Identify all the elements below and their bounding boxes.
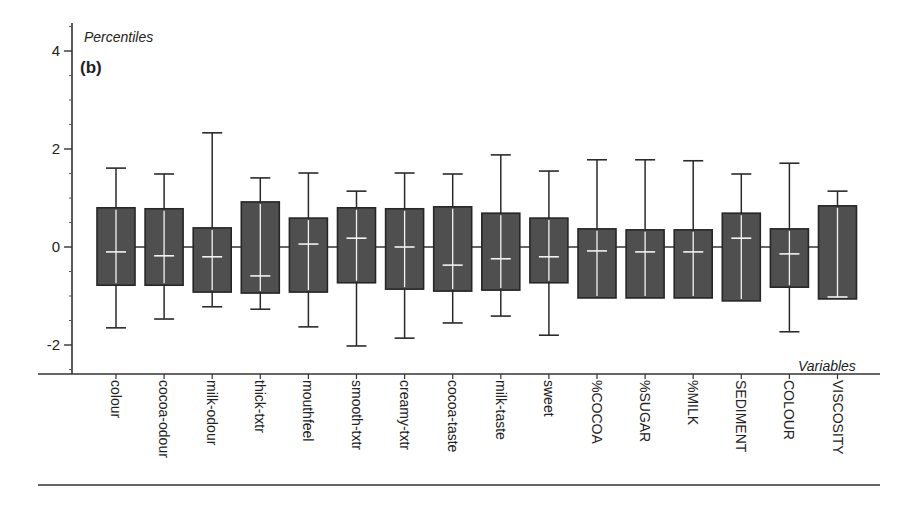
boxplot-chart: 420-2 Percentiles (b) Variables colourco… [0, 0, 913, 517]
y-tick-label: -2 [47, 336, 60, 353]
x-axis-title: Variables [798, 358, 856, 374]
box-mouthfeel [289, 173, 327, 327]
box--cocoa [578, 160, 616, 298]
box--milk [674, 161, 712, 298]
y-tick-label: 4 [52, 42, 60, 59]
x-tick-label: thick-txtr [252, 380, 268, 433]
x-tick-label: creamy-txtr [397, 380, 413, 450]
x-tick-label: cocoa-odour [156, 380, 172, 458]
box-series [97, 133, 857, 346]
box-sweet [530, 171, 568, 335]
x-tick-label: SEDIMENT [733, 380, 749, 453]
box-cocoa-taste [434, 174, 472, 323]
x-tick-label: %SUGAR [637, 380, 653, 442]
x-tick-label: milk-taste [493, 380, 509, 440]
box-smooth-txtr [338, 191, 376, 346]
box-milk-taste [482, 155, 520, 316]
y-ticks: 420-2 [47, 42, 72, 353]
x-tick-label: %MILK [685, 380, 701, 426]
box-thick-txtr [241, 178, 279, 309]
x-tick-label: sweet [541, 380, 557, 417]
box-cocoa-odour [145, 174, 183, 319]
y-tick-label: 0 [52, 238, 60, 255]
box-creamy-txtr [386, 173, 424, 338]
x-tick-label: colour [108, 380, 124, 418]
x-tick-label: cocoa-taste [445, 380, 461, 453]
box-milk-odour [193, 133, 231, 307]
x-category-labels: colourcocoa-odourmilk-odourthick-txtrmou… [108, 374, 846, 458]
box--sugar [626, 160, 664, 298]
panel-label: (b) [80, 58, 102, 77]
x-tick-label: smooth-txtr [349, 380, 365, 450]
box-sediment [722, 174, 760, 301]
x-tick-label: milk-odour [204, 380, 220, 446]
box-colour [770, 163, 808, 332]
y-tick-label: 2 [52, 140, 60, 157]
x-tick-label: COLOUR [781, 380, 797, 440]
x-tick-label: %COCOA [589, 380, 605, 444]
x-tick-label: mouthfeel [300, 380, 316, 441]
y-axis-title: Percentiles [84, 29, 153, 45]
box-colour [97, 168, 135, 328]
x-tick-label: VISCOSITY [830, 380, 846, 455]
box-viscosity [819, 191, 857, 299]
